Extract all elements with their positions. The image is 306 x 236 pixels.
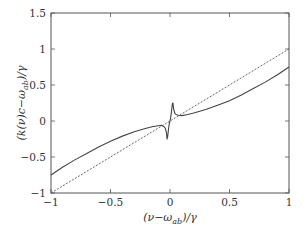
y-tick-label: 1.5 — [29, 7, 46, 19]
x-axis-ticks: −1−0.500.51 — [43, 13, 292, 208]
x-tick-label: 0 — [167, 196, 174, 208]
y-tick-label: 0.5 — [29, 79, 46, 91]
chart: −1−0.500.51 −1−0.500.511.5 (ν−ωab)/γ (k(… — [0, 0, 306, 236]
series-layer — [51, 49, 289, 193]
x-tick-label: −0.5 — [98, 196, 124, 208]
y-tick-label: −1 — [31, 187, 46, 199]
x-tick-label: 0.5 — [221, 196, 238, 208]
x-axis-label: (ν−ωab)/γ — [143, 211, 197, 226]
y-axis-label: (k(ν)c−ωab)/γ — [15, 65, 30, 140]
y-axis-ticks: −1−0.500.511.5 — [21, 7, 290, 199]
x-tick-label: 1 — [286, 196, 293, 208]
y-tick-label: 0 — [39, 115, 46, 127]
y-tick-label: −0.5 — [21, 151, 47, 163]
y-tick-label: 1 — [39, 43, 46, 55]
solid-curve-series — [51, 67, 289, 175]
plot-frame — [51, 13, 289, 193]
